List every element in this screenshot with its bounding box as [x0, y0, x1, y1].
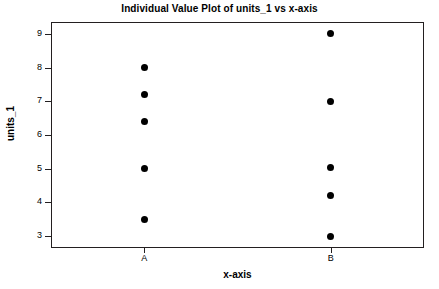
- y-tick-mark: [45, 34, 51, 35]
- y-tick-mark: [45, 101, 51, 102]
- data-point: [327, 164, 334, 171]
- data-point: [141, 165, 148, 172]
- data-point: [327, 98, 334, 105]
- x-tick-label: B: [311, 254, 351, 263]
- y-tick-mark: [45, 236, 51, 237]
- plot-area: [51, 22, 424, 248]
- y-tick-label: 4: [2, 197, 42, 206]
- y-tick-label: 5: [2, 164, 42, 173]
- individual-value-plot-figure: Individual Value Plot of units_1 vs x-ax…: [0, 0, 439, 289]
- y-tick-mark: [45, 68, 51, 69]
- chart-title: Individual Value Plot of units_1 vs x-ax…: [0, 3, 439, 14]
- y-tick-mark: [45, 202, 51, 203]
- data-point: [141, 118, 148, 125]
- y-axis-title: units_1: [5, 94, 16, 154]
- y-tick-mark: [45, 169, 51, 170]
- y-tick-label: 8: [2, 63, 42, 72]
- data-point: [141, 91, 148, 98]
- x-axis-title: x-axis: [51, 269, 424, 280]
- data-point: [141, 64, 148, 71]
- y-tick-label: 9: [2, 29, 42, 38]
- y-tick-label: 3: [2, 231, 42, 240]
- data-point: [141, 216, 148, 223]
- data-point: [327, 233, 334, 240]
- x-tick-label: A: [124, 254, 164, 263]
- y-tick-mark: [45, 135, 51, 136]
